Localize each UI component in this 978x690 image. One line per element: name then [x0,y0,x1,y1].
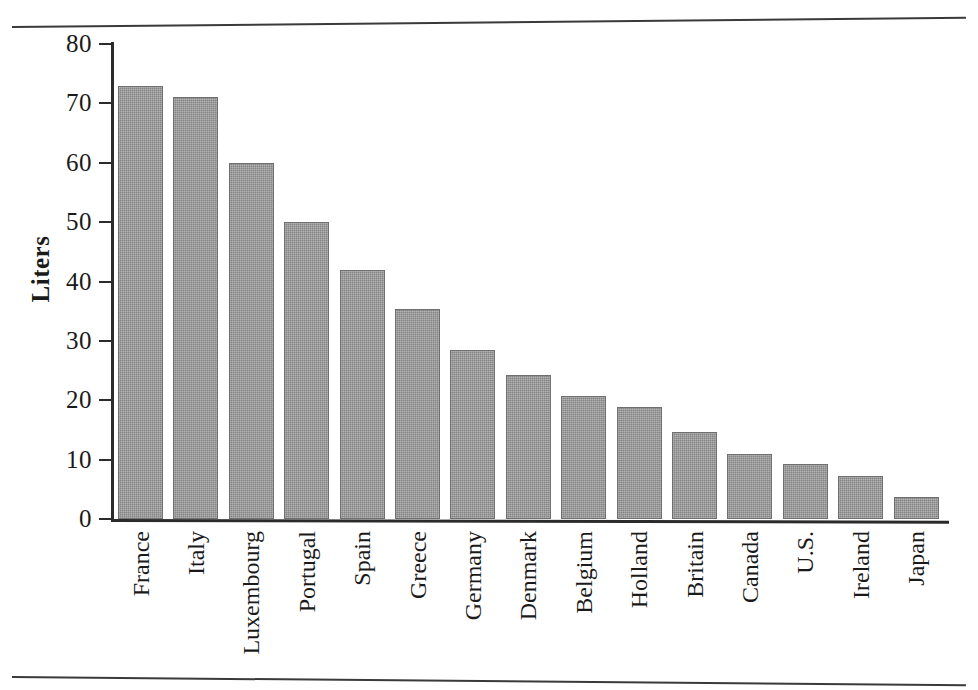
bar-holland [617,407,662,519]
y-axis-tick-label-text: 60 [40,150,92,175]
x-axis-label-luxembourg: Luxembourg [228,531,274,655]
bar-spain [340,270,385,519]
bar-portugal [284,222,329,519]
x-axis-label-text: Portugal [284,531,330,612]
x-axis-label-ireland: Ireland [838,531,884,599]
x-axis-label-denmark: Denmark [505,531,551,620]
x-axis-label-canada: Canada [727,531,773,603]
x-axis-label-holland: Holland [616,531,662,608]
y-axis-tick-label: 20 [30,387,92,412]
x-axis-label-text: Greece [395,531,441,599]
x-axis-label-text: France [118,531,164,596]
x-axis-label-germany: Germany [450,531,496,620]
y-axis-tick-label: 80 [30,31,92,56]
bar-chart: Liters 01020304050607080 FranceItalyLuxe… [0,0,978,690]
y-axis-tick-label-text: 20 [40,387,92,412]
bar-luxembourg [229,163,274,519]
x-axis-label-italy: Italy [173,531,219,575]
y-axis-tick [99,221,113,223]
y-axis-tick [99,518,113,520]
bar-britain [672,432,717,519]
y-axis-tick-label-text: 70 [40,90,92,115]
x-axis-label-greece: Greece [395,531,441,599]
y-axis-tick-label-text: 50 [40,209,92,234]
y-axis-tick-label: 30 [30,328,92,353]
y-axis-tick [99,340,113,342]
x-axis-label-text: Italy [173,531,219,575]
x-axis-label-u-s: U.S. [782,531,828,574]
bar-u-s [783,464,828,519]
y-axis-tick-label-text: 80 [40,31,92,56]
y-axis-tick [99,43,113,45]
y-axis-tick-label: 0 [30,506,92,531]
x-axis-label-text: Denmark [505,531,551,620]
bar-italy [173,97,218,519]
y-axis-tick [99,281,113,283]
x-axis-label-spain: Spain [339,531,385,586]
bar-japan [894,497,939,519]
x-axis-label-text: Spain [339,531,385,586]
x-axis-line [111,519,949,524]
y-axis-tick [99,399,113,401]
bar-belgium [561,396,606,519]
y-axis-tick-label: 70 [30,90,92,115]
x-axis-label-text: Belgium [561,531,607,614]
y-axis-tick-label-text: 40 [40,269,92,294]
y-axis-tick-label-text: 0 [40,506,92,531]
x-axis-label-britain: Britain [672,531,718,598]
x-axis-label-text: Germany [450,531,496,620]
x-axis-label-text: Japan [893,531,939,586]
bar-denmark [506,375,551,519]
y-axis-tick-label: 10 [30,447,92,472]
x-axis-label-belgium: Belgium [561,531,607,614]
x-axis-label-text: Luxembourg [228,531,274,655]
x-axis-label-japan: Japan [893,531,939,586]
y-axis-tick-label: 60 [30,150,92,175]
y-axis-tick [99,102,113,104]
x-axis-label-text: Holland [616,531,662,608]
y-axis-tick [99,162,113,164]
y-axis-tick-label: 40 [30,269,92,294]
x-axis-label-france: France [118,531,164,596]
bar-germany [450,350,495,519]
bar-ireland [838,476,883,519]
bar-greece [395,309,440,519]
x-axis-label-text: U.S. [782,531,828,574]
y-axis-tick [99,459,113,461]
x-axis-label-text: Britain [672,531,718,598]
bar-france [118,86,163,519]
x-axis-label-text: Canada [727,531,773,603]
y-axis-tick-label: 50 [30,209,92,234]
bar-canada [727,454,772,519]
x-axis-label-portugal: Portugal [284,531,330,612]
y-axis-tick-label-text: 10 [40,447,92,472]
x-axis-label-text: Ireland [838,531,884,599]
y-axis-tick-label-text: 30 [40,328,92,353]
